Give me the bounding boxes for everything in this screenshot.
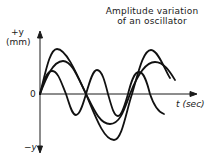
oscillation-plot (0, 0, 216, 164)
y-axis-up-arrow-icon (38, 31, 43, 38)
curve-high-frequency (40, 70, 164, 116)
x-axis-arrow-icon (190, 92, 197, 97)
y-axis-down-arrow-icon (38, 146, 43, 153)
